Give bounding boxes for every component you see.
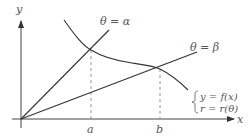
polar-cartesian-diagram: y x θ = α θ = β a b y = f(x) r = r(θ)	[0, 0, 250, 138]
ray-alpha	[21, 30, 109, 119]
equation-cartesian: y = f(x)	[199, 91, 238, 102]
ray-beta	[21, 52, 197, 119]
ray-alpha-label: θ = α	[100, 15, 131, 28]
equation-polar: r = r(θ)	[200, 103, 238, 114]
tick-a-label: a	[87, 123, 94, 136]
brace-icon	[192, 91, 198, 113]
y-axis-label: y	[15, 3, 23, 16]
x-axis-label: x	[237, 113, 244, 126]
ray-beta-label: θ = β	[190, 41, 219, 54]
tick-b-label: b	[156, 123, 163, 136]
